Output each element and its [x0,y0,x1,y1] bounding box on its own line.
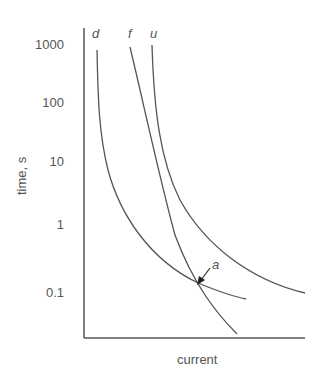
curve-label-f: f [128,26,132,41]
curve-label-d: d [92,26,99,41]
ytick-1: 1 [4,217,64,232]
ytick-1000: 1000 [4,37,64,52]
y-axis-label: time, s [14,157,29,195]
curve-label-u: u [150,26,157,41]
curve-u [152,45,305,293]
chart-plot-area [0,0,323,386]
point-label-a: a [212,257,219,272]
arrow-a [201,268,210,280]
ytick-0.1: 0.1 [4,285,64,300]
curve-d [97,50,246,299]
curve-f [130,47,237,334]
ytick-100: 100 [4,95,64,110]
x-axis-label: current [177,352,217,367]
ytick-10: 10 [4,154,64,169]
